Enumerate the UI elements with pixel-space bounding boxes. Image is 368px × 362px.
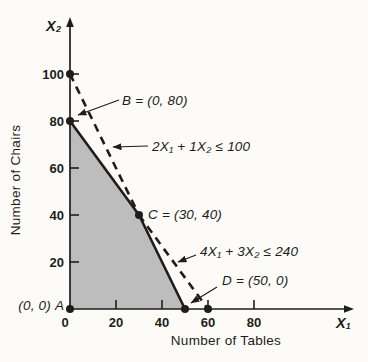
y-tick-label-40: 40	[50, 208, 64, 223]
y-tick-label-80: 80	[50, 114, 64, 129]
origin-coords-label: (0, 0)	[18, 298, 51, 313]
y-axis-symbol-label: X₂	[45, 18, 62, 34]
point-dot-a	[66, 305, 74, 313]
point-d-label: D = (50, 0)	[222, 273, 288, 288]
constraint-1-leader-arrow	[113, 146, 148, 147]
y-axis-arrowhead	[66, 17, 74, 27]
x-tick-label-80: 80	[247, 315, 261, 330]
y-tick-label-20: 20	[50, 255, 64, 270]
y-tick-label-100: 100	[42, 67, 64, 82]
x-axis-symbol-label: X₁	[335, 315, 351, 331]
point-dot-b	[66, 117, 74, 125]
intercept-dot-0-100	[66, 70, 74, 78]
point-dot-d	[181, 305, 189, 313]
point-a-label: A	[54, 298, 64, 313]
x-axis-title: Number of Tables	[171, 333, 281, 348]
constraint-2-leader-arrow	[178, 255, 196, 262]
x-tick-label-60: 60	[201, 315, 215, 330]
lp-feasible-region-figure: 02040608020406080100 X₂ X₁ Number of Tab…	[0, 0, 368, 362]
point-c-label: C = (30, 40)	[148, 207, 222, 222]
figure-canvas: 02040608020406080100 X₂ X₁ Number of Tab…	[0, 0, 368, 362]
point-d-leader-arrow	[191, 287, 217, 303]
constraint-1-label: 2X₁ + 1X₂ ≤ 100	[151, 139, 251, 154]
x-tick-label-0: 0	[61, 315, 68, 330]
y-axis-title: Number of Chairs	[8, 125, 23, 236]
y-tick-label-60: 60	[50, 161, 64, 176]
constraint-2-label: 4X₁ + 3X₂ ≤ 240	[200, 244, 299, 259]
intercept-dot-60-0	[204, 305, 212, 313]
x-tick-label-20: 20	[109, 315, 123, 330]
point-dot-c	[135, 211, 143, 219]
x-axis-arrowhead	[344, 305, 354, 313]
point-b-label: B = (0, 80)	[122, 93, 188, 108]
x-tick-label-40: 40	[155, 315, 169, 330]
